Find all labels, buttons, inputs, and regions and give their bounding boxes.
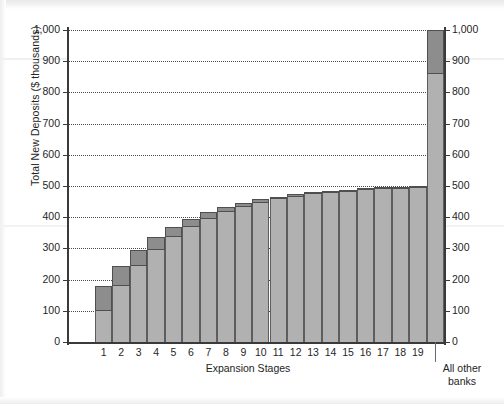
bar-segment-increment: [270, 197, 287, 200]
bar-segment-cumulative: [270, 199, 287, 342]
x-tick-label: 5: [165, 346, 182, 358]
bar-segment-cumulative: [304, 194, 321, 342]
y-tick-label: 0: [452, 335, 498, 347]
bar-segment-increment: [235, 203, 252, 207]
bar-segment-cumulative: [217, 212, 234, 342]
bar-segment-cumulative: [112, 286, 129, 342]
y-tick-mark: [63, 342, 67, 343]
y-tick-mark: [446, 217, 450, 218]
y-tick-mark: [446, 186, 450, 187]
bar-segment-cumulative: [182, 227, 199, 342]
bar-segment-cumulative: [252, 203, 269, 342]
plot-area: [69, 30, 444, 342]
bar: [112, 266, 129, 342]
bar-segment-cumulative: [409, 188, 426, 342]
bar: [409, 188, 426, 342]
x-tick-label: 17: [374, 346, 391, 358]
y-tick-label: 0: [14, 335, 60, 347]
bar: [182, 219, 199, 342]
bar-segment-increment: [304, 192, 321, 194]
bar: [165, 227, 182, 342]
bar-segment-cumulative: [427, 74, 444, 342]
y-tick-label: 200: [14, 273, 60, 285]
y-tick-mark: [446, 248, 450, 249]
right-category-label: All other banks: [425, 362, 499, 387]
x-axis-line: [67, 342, 446, 344]
x-tick-label: 8: [217, 346, 234, 358]
bar: [427, 30, 444, 342]
y-tick-mark: [63, 311, 67, 312]
bar-segment-increment: [427, 30, 444, 74]
y-tick-mark: [63, 186, 67, 187]
y-tick-label: 600: [14, 148, 60, 160]
bar-segment-increment: [165, 227, 182, 237]
y-tick-label: 500: [14, 179, 60, 191]
bar-segment-cumulative: [147, 250, 164, 342]
x-tick-label: 10: [252, 346, 269, 358]
y-tick-mark: [446, 30, 450, 31]
x-tick-label: 6: [182, 346, 199, 358]
y-tick-label: 100: [452, 304, 498, 316]
y-tick-mark: [446, 342, 450, 343]
y-tick-mark: [63, 155, 67, 156]
y-tick-mark: [446, 280, 450, 281]
x-tick-label: 11: [270, 346, 287, 358]
y-tick-mark: [446, 124, 450, 125]
bar-segment-cumulative: [339, 192, 356, 342]
y-tick-label: 600: [452, 148, 498, 160]
bar-series: [69, 30, 444, 342]
bar: [322, 192, 339, 342]
y-tick-label: 800: [452, 85, 498, 97]
bar: [270, 197, 287, 342]
bar: [95, 286, 112, 342]
y-tick-mark: [63, 217, 67, 218]
bar: [339, 190, 356, 342]
bar-segment-cumulative: [95, 311, 112, 342]
x-axis-title: Expansion Stages: [68, 362, 428, 374]
y-tick-mark: [446, 61, 450, 62]
bar-segment-cumulative: [165, 237, 182, 342]
y-tick-label: 500: [452, 179, 498, 191]
y-tick-label: 400: [14, 210, 60, 222]
bar-segment-increment: [130, 250, 147, 266]
y-tick-label: 700: [14, 117, 60, 129]
bar-segment-cumulative: [392, 189, 409, 342]
bar-segment-cumulative: [200, 219, 217, 342]
y-tick-mark: [446, 155, 450, 156]
bar: [392, 188, 409, 342]
bar-segment-increment: [322, 191, 339, 193]
y-tick-mark: [63, 248, 67, 249]
x-tick-label: 12: [287, 346, 304, 358]
right-category-line1: All other: [425, 362, 499, 375]
y-tick-label: 900: [14, 54, 60, 66]
y-tick-label: 100: [14, 304, 60, 316]
y-tick-label: 900: [452, 54, 498, 66]
bar-segment-increment: [147, 237, 164, 250]
bar-segment-increment: [374, 187, 391, 189]
bar: [252, 199, 269, 342]
bar: [304, 193, 321, 342]
bar-segment-cumulative: [235, 207, 252, 342]
bar-segment-increment: [252, 199, 269, 202]
y-tick-mark: [63, 92, 67, 93]
bar-segment-cumulative: [130, 266, 147, 342]
y-tick-label: 400: [452, 210, 498, 222]
x-tick-label: 4: [147, 346, 164, 358]
bar-segment-increment: [357, 188, 374, 190]
bar: [374, 189, 391, 342]
bar: [217, 207, 234, 342]
y-tick-mark: [63, 30, 67, 31]
bar-segment-increment: [95, 286, 112, 311]
y-tick-mark: [63, 61, 67, 62]
bar-segment-increment: [409, 186, 426, 188]
x-tick-label: 18: [392, 346, 409, 358]
y-tick-label: 700: [452, 117, 498, 129]
bar-segment-increment: [112, 266, 129, 286]
bar: [200, 212, 217, 342]
bar-segment-cumulative: [357, 190, 374, 342]
x-tick-label: 7: [200, 346, 217, 358]
deposit-expansion-chart: Total New Deposits ($ thousands) Expansi…: [0, 0, 504, 404]
y-tick-label: 300: [14, 241, 60, 253]
y-tick-mark: [63, 280, 67, 281]
y-tick-label: 300: [452, 241, 498, 253]
